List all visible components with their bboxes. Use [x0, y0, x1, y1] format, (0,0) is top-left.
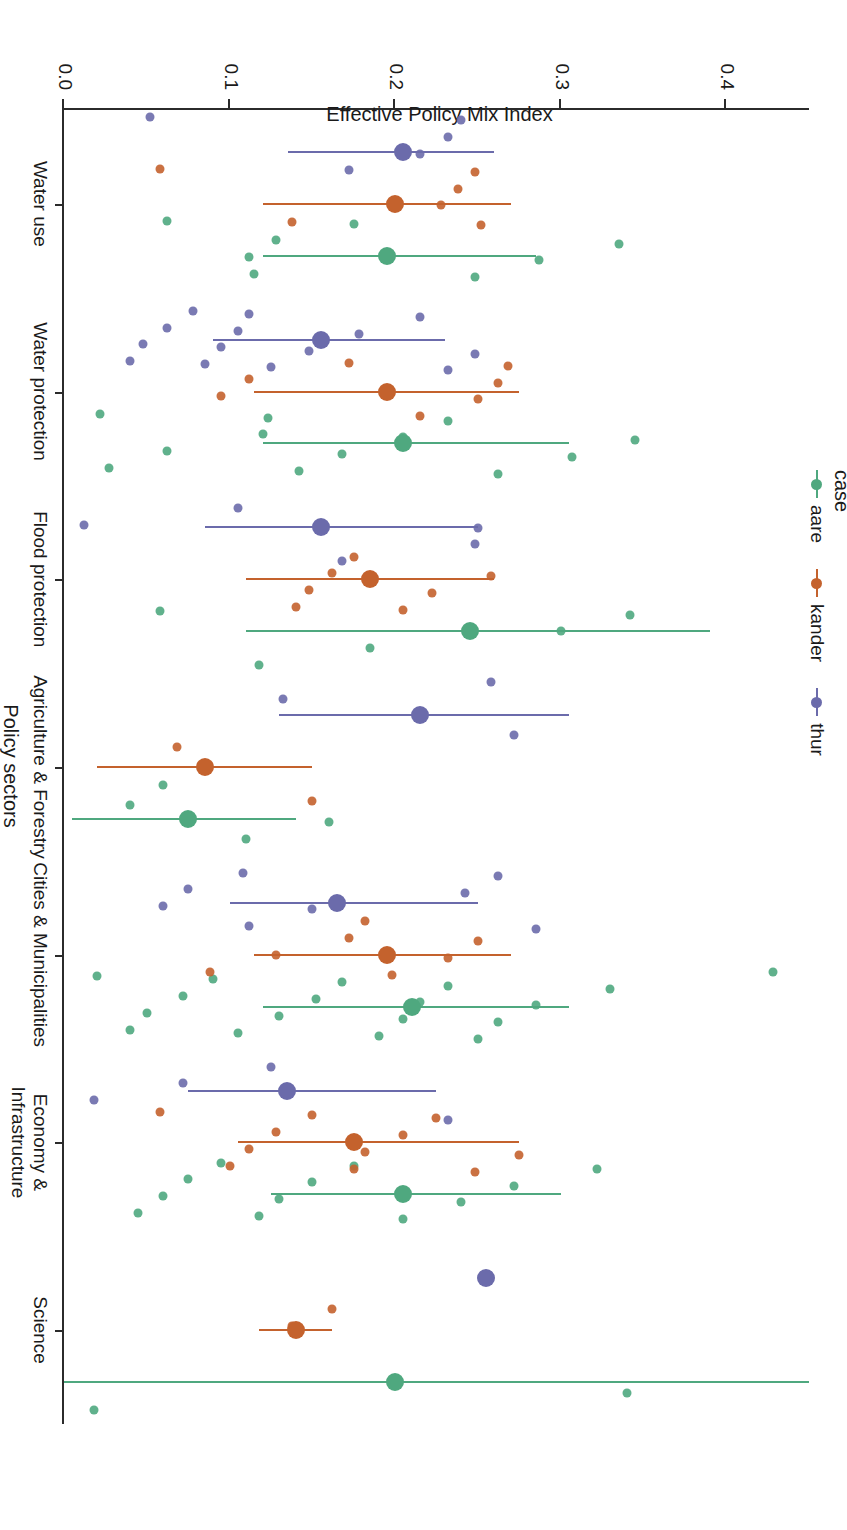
data-point — [338, 450, 347, 459]
data-point — [487, 677, 496, 686]
data-point — [631, 436, 640, 445]
legend-dot-icon — [811, 479, 822, 490]
y-tick — [724, 99, 726, 109]
data-point — [255, 660, 264, 669]
mean-marker — [328, 894, 346, 912]
data-point — [344, 934, 353, 943]
x-tick — [55, 204, 64, 206]
data-point — [493, 1018, 502, 1027]
legend-dot-icon — [811, 697, 822, 708]
legend-items: aarekanderthur — [806, 470, 828, 756]
error-bar — [188, 1090, 436, 1092]
data-point — [344, 358, 353, 367]
mean-marker — [394, 434, 412, 452]
plot-area — [64, 110, 809, 1424]
data-point — [460, 888, 469, 897]
legend-item[interactable]: aare — [806, 470, 828, 543]
data-point — [454, 184, 463, 193]
y-tick-label: 0.0 — [54, 20, 76, 90]
data-point — [457, 115, 466, 124]
data-point — [233, 326, 242, 335]
data-point — [470, 540, 479, 549]
legend-label: kander — [806, 604, 828, 662]
data-point — [142, 1008, 151, 1017]
data-point — [162, 216, 171, 225]
legend-title: case — [830, 470, 847, 756]
data-point — [179, 1079, 188, 1088]
data-point — [473, 395, 482, 404]
data-point — [89, 1405, 98, 1414]
data-point — [503, 361, 512, 370]
error-bar — [64, 1381, 809, 1383]
data-point — [354, 329, 363, 338]
data-point — [308, 905, 317, 914]
legend-label: aare — [806, 505, 828, 543]
data-point — [457, 1198, 466, 1207]
data-point — [535, 256, 544, 265]
data-point — [477, 221, 486, 230]
data-point — [263, 413, 272, 422]
mean-marker — [403, 998, 421, 1016]
x-tick — [55, 392, 64, 394]
data-point — [126, 1025, 135, 1034]
data-point — [295, 467, 304, 476]
data-point — [366, 644, 375, 653]
error-bar — [205, 526, 478, 528]
data-point — [291, 602, 300, 611]
y-tick-label: 0.4 — [716, 20, 738, 90]
legend-marker-icon — [816, 688, 818, 716]
x-tick-label: Water use — [29, 99, 51, 309]
mean-marker — [279, 1082, 297, 1100]
legend-item[interactable]: kander — [806, 569, 828, 662]
mean-marker — [312, 518, 330, 536]
data-point — [275, 1195, 284, 1204]
legend-item[interactable]: thur — [806, 688, 828, 756]
data-point — [510, 1181, 519, 1190]
mean-marker — [196, 758, 214, 776]
data-point — [311, 995, 320, 1004]
x-tick-label: Cities & Municipalities — [29, 850, 51, 1060]
mean-marker — [345, 1133, 363, 1151]
mean-marker — [312, 331, 330, 349]
data-point — [271, 1128, 280, 1137]
x-tick-label: Science — [29, 1225, 51, 1435]
data-point — [349, 219, 358, 228]
data-point — [96, 410, 105, 419]
data-point — [308, 796, 317, 805]
data-point — [493, 378, 502, 387]
data-point — [515, 1151, 524, 1160]
data-point — [593, 1164, 602, 1173]
data-point — [399, 1215, 408, 1224]
data-point — [159, 1192, 168, 1201]
data-point — [510, 731, 519, 740]
data-point — [305, 346, 314, 355]
legend: case aarekanderthur — [806, 470, 847, 756]
data-point — [238, 868, 247, 877]
data-point — [255, 1212, 264, 1221]
error-bar — [263, 255, 536, 257]
data-point — [156, 1108, 165, 1117]
data-point — [344, 166, 353, 175]
data-point — [275, 1012, 284, 1021]
data-point — [242, 834, 251, 843]
data-point — [233, 503, 242, 512]
data-point — [126, 801, 135, 810]
mean-marker — [361, 570, 379, 588]
data-point — [189, 306, 198, 315]
mean-marker — [411, 706, 429, 724]
data-point — [139, 340, 148, 349]
data-point — [200, 360, 209, 369]
x-tick — [55, 1142, 64, 1144]
x-axis-title: Policy sectors — [0, 108, 22, 1424]
data-point — [250, 270, 259, 279]
data-point — [493, 470, 502, 479]
data-point — [444, 1115, 453, 1124]
x-tick — [55, 955, 64, 957]
data-point — [470, 273, 479, 282]
data-point — [225, 1161, 234, 1170]
data-point — [361, 1147, 370, 1156]
data-point — [324, 818, 333, 827]
legend-dot-icon — [811, 578, 822, 589]
mean-marker — [386, 1373, 404, 1391]
data-point — [266, 1062, 275, 1071]
